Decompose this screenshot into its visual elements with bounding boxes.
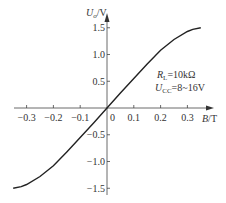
- x-axis-arrow-icon: [206, 106, 214, 111]
- x-tick-label: −0.3: [18, 112, 36, 123]
- y-tick-label: −0.5: [87, 129, 105, 140]
- annotation-rl: RL=10kΩ: [156, 69, 195, 82]
- origin-label: 0: [110, 112, 115, 123]
- y-tick-label: 1.5: [93, 22, 106, 33]
- x-tick-label: 0.3: [181, 112, 194, 123]
- x-axis-label: B/T: [202, 113, 217, 124]
- x-tick-label: 0.1: [128, 112, 141, 123]
- chart-canvas: −0.3−0.2−0.10.10.20.3 1.51.00.5−0.5−1.0−…: [0, 0, 226, 203]
- x-tick-label: −0.1: [71, 112, 89, 123]
- y-tick-label: −1.5: [87, 183, 105, 194]
- y-tick-label: 1.0: [93, 49, 106, 60]
- annotation-ucc: UCC=8~16V: [155, 82, 206, 95]
- y-tick-label: −1.0: [87, 156, 105, 167]
- y-tick-label: 0.5: [93, 76, 106, 87]
- y-axis-label: Uo/V: [86, 7, 108, 20]
- x-tick-label: 0.2: [154, 112, 167, 123]
- x-tick-label: −0.2: [44, 112, 62, 123]
- axes: [14, 13, 214, 195]
